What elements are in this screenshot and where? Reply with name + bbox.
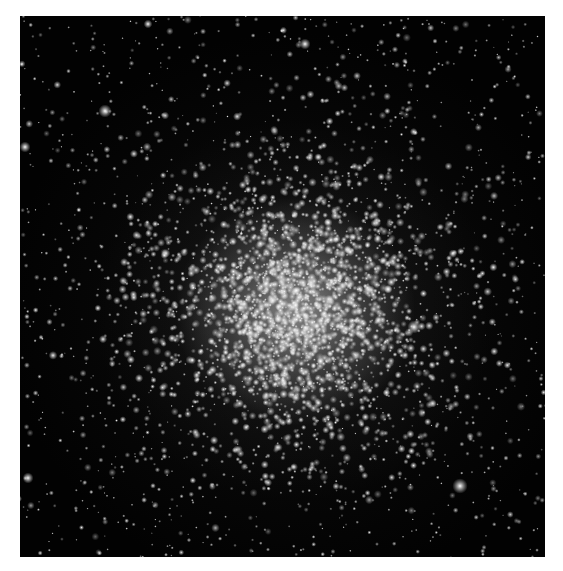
star-cluster-image: [20, 16, 545, 557]
star-field: [20, 16, 545, 557]
